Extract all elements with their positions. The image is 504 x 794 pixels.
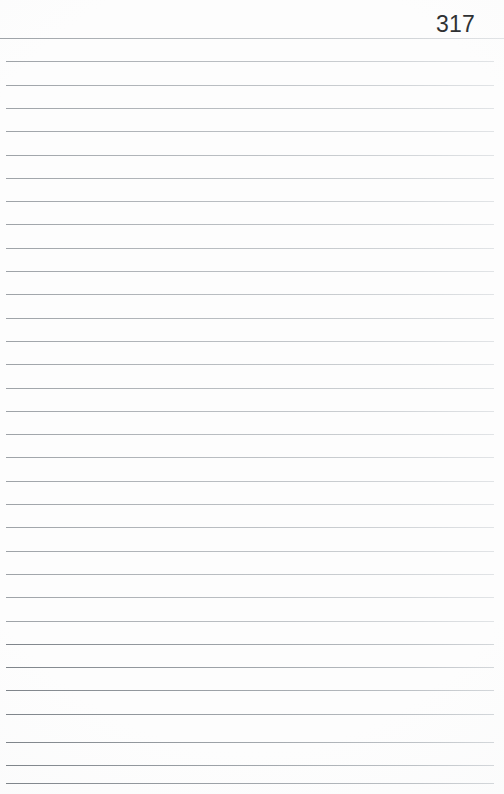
ruled-line [6,248,494,249]
ruled-line [6,341,494,342]
ruled-line [6,364,494,365]
ruled-line [6,434,494,435]
ruled-line [6,621,494,622]
ruled-line [6,457,494,458]
ruled-line [6,178,494,179]
notebook-page: 317 [0,0,504,794]
ruled-line [6,714,494,715]
ruled-line [6,527,494,528]
ruled-line [6,318,494,319]
ruled-line [6,155,494,156]
ruled-line [6,783,494,784]
ruled-line [6,85,494,86]
ruled-line [6,481,494,482]
ruled-lines-group [0,0,504,794]
ruled-line [6,551,494,552]
ruled-line [6,644,494,645]
ruled-line [6,597,494,598]
ruled-line [6,61,494,62]
ruled-line [6,388,494,389]
ruled-line [6,690,494,691]
ruled-line [6,271,494,272]
ruled-line [6,201,494,202]
ruled-line [6,131,494,132]
ruled-line [6,574,494,575]
ruled-line [6,667,494,668]
ruled-line [6,742,494,743]
ruled-line [6,411,494,412]
ruled-line [6,294,494,295]
ruled-line [6,108,494,109]
ruled-line [0,38,504,39]
ruled-line [6,765,494,766]
ruled-line [6,504,494,505]
page-number: 317 [436,13,475,36]
ruled-line [6,224,494,225]
